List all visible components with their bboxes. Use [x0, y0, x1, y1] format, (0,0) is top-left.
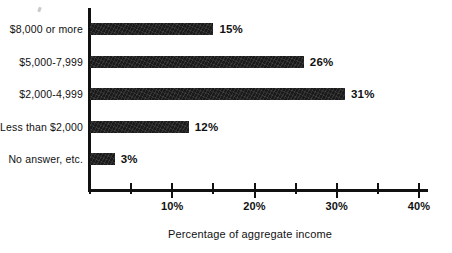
category-label: No answer, etc. — [8, 152, 83, 166]
bar-row: Less than $2,00012% — [0, 120, 452, 134]
x-tick-label-30: 30% — [325, 200, 348, 212]
x-tick-30 — [336, 183, 338, 198]
bar-value-label: 15% — [219, 21, 243, 37]
bar — [90, 153, 115, 165]
x-tick-35 — [377, 183, 379, 194]
x-tick-15 — [212, 183, 214, 194]
bar-row: $8,000 or more15% — [0, 22, 452, 36]
x-tick-label-20: 20% — [243, 200, 266, 212]
bar — [90, 121, 189, 133]
x-tick-5 — [130, 183, 132, 194]
x-tick-label-40: 40% — [408, 200, 431, 212]
x-tick-0 — [89, 183, 91, 194]
bar — [90, 23, 213, 35]
category-label: $8,000 or more — [10, 22, 83, 36]
category-label: $2,000-4,999 — [19, 87, 83, 101]
x-tick-40 — [418, 183, 420, 198]
category-label: Less than $2,000 — [0, 120, 83, 134]
bar-row: $2,000-4,99931% — [0, 87, 452, 101]
plot-area: 10%20%30%40% $8,000 or more15%$5,000-7,9… — [0, 0, 452, 253]
bar-value-label: 12% — [195, 119, 219, 135]
bar-value-label: 3% — [121, 151, 138, 167]
x-tick-25 — [295, 183, 297, 194]
bar-row: No answer, etc.3% — [0, 152, 452, 166]
category-label: $5,000-7,999 — [19, 55, 83, 69]
bar-row: $5,000-7,99926% — [0, 55, 452, 69]
bar-value-label: 26% — [310, 54, 334, 70]
bar-chart-figure: 10%20%30%40% $8,000 or more15%$5,000-7,9… — [0, 0, 452, 253]
x-tick-label-10: 10% — [161, 200, 184, 212]
bar — [90, 56, 304, 68]
bar-value-label: 31% — [351, 86, 375, 102]
x-tick-10 — [171, 183, 173, 198]
x-axis-title: Percentage of aggregate income — [0, 228, 452, 240]
x-axis-title-text: Percentage of aggregate income — [168, 228, 332, 240]
bar — [90, 88, 345, 100]
x-tick-20 — [254, 183, 256, 198]
